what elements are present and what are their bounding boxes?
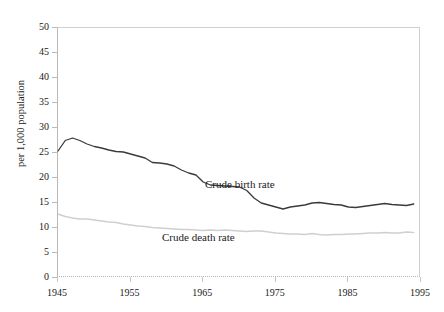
y-axis-tick-label: 35 [39,97,49,107]
x-axis-tick-label: 1975 [265,288,285,298]
x-axis-tick-mark [130,277,131,282]
x-axis-tick-mark [275,277,276,282]
y-axis-tick-label: 5 [44,247,49,257]
y-axis: 05101520253035404550 [0,0,57,312]
x-axis-tick-label: 1965 [192,288,212,298]
x-axis-tick-label: 1995 [410,288,430,298]
x-axis: 194519551965197519851995 [0,277,444,312]
y-axis-tick-label: 50 [39,22,49,32]
series-line-crude-death-rate [58,214,414,235]
series-line-crude-birth-rate [58,138,414,209]
x-axis-tick-mark [420,277,421,282]
series-canvas [58,28,421,278]
y-axis-tick-label: 10 [39,222,49,232]
y-axis-tick-label: 15 [39,197,49,207]
y-axis-tick-label: 45 [39,47,49,57]
x-axis-tick-label: 1985 [337,288,357,298]
x-axis-tick-mark [347,277,348,282]
x-axis-tick-label: 1945 [47,288,67,298]
y-axis-tick-label: 20 [39,172,49,182]
plot-area: Crude birth rate Crude death rate [57,27,420,277]
x-axis-tick-mark [202,277,203,282]
x-axis-tick-mark [57,277,58,282]
chart-figure: per 1,000 population 0510152025303540455… [0,0,444,312]
y-axis-tick-label: 25 [39,147,49,157]
x-axis-tick-label: 1955 [120,288,140,298]
series-annotation-crude-birth-rate: Crude birth rate [205,178,275,190]
series-annotation-crude-death-rate: Crude death rate [162,231,235,243]
y-axis-tick-label: 30 [39,122,49,132]
y-axis-tick-label: 40 [39,72,49,82]
